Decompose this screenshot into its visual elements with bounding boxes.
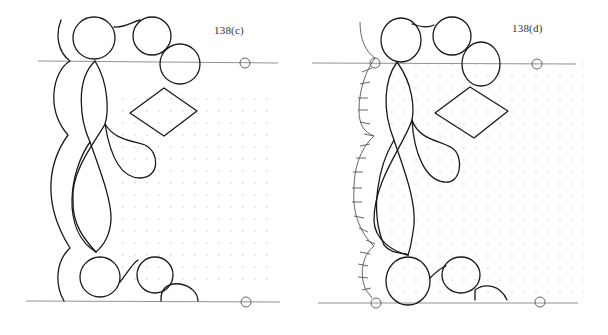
diagram-panel-c: 138(c) xyxy=(0,0,304,335)
pin-circle-bottom-right-d xyxy=(535,297,545,307)
top-circle-2-c xyxy=(133,17,171,55)
top-circle-1-c xyxy=(73,17,115,59)
dot-grid-c xyxy=(118,95,278,290)
top-circle-3-c xyxy=(160,44,200,84)
leaf-right-c xyxy=(73,61,107,252)
top-guideline-c xyxy=(38,61,278,63)
leaf-center-c xyxy=(90,142,111,252)
lace-pattern-c xyxy=(0,0,304,335)
outer-border-c xyxy=(51,20,70,301)
top-circle-2-d xyxy=(433,17,471,55)
bottom-circle-1-c xyxy=(80,257,120,297)
diagram-panel-d: 138(d) xyxy=(304,0,608,335)
tick-marks-d xyxy=(352,68,375,290)
leaf-left-c xyxy=(72,61,96,252)
lace-pattern-d xyxy=(304,0,608,335)
dot-grid-d xyxy=(384,55,584,295)
